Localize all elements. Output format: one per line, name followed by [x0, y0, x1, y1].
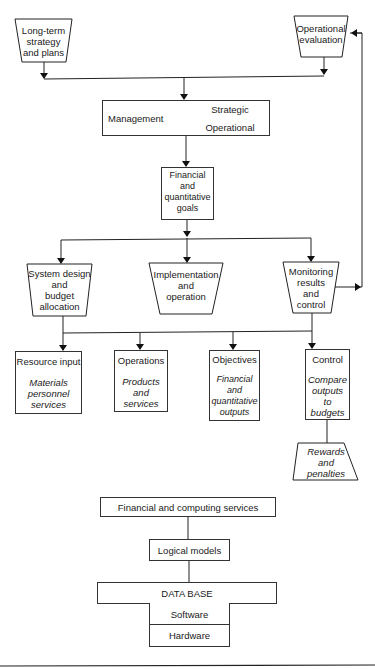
objectives-detail: Financial and quantitative outputs — [208, 374, 261, 418]
management-strategic-label: Strategic — [190, 104, 270, 115]
goals-label: Financial and quantitative goals — [161, 170, 214, 214]
management-operational-label: Operational — [190, 122, 270, 133]
operations-detail: Products and services — [114, 376, 168, 409]
services-label: Financial and computing services — [100, 502, 276, 513]
database-label: DATA BASE — [97, 588, 277, 599]
software-label: Software — [149, 609, 230, 620]
logical-models-label: Logical models — [149, 545, 230, 556]
resource-input-detail: Materials personnel services — [15, 377, 82, 410]
control-title: Control — [305, 354, 350, 365]
monitoring-node: Monitoring results and control — [283, 266, 339, 310]
control-detail: Compare outputs to budgets — [305, 374, 350, 418]
resource-input-title: Resource input — [15, 356, 82, 367]
system-design-node: System design and budget allocation — [27, 268, 92, 312]
operational-evaluation-node: Operational evaluation — [294, 23, 348, 45]
implementation-node: Implementation and operation — [149, 269, 223, 302]
operations-title: Operations — [114, 355, 168, 366]
objectives-title: Objectives — [209, 354, 260, 365]
rewards-node: Rewards and penalties — [296, 446, 356, 479]
long-term-strategy-node: Long-term strategy and plans — [15, 25, 72, 58]
management-label: Management — [108, 113, 178, 124]
hardware-label: Hardware — [149, 630, 230, 641]
